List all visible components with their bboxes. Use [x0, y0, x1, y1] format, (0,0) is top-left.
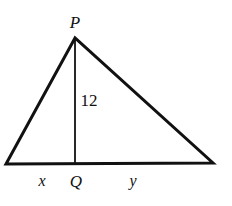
vertex-label-p: P — [70, 14, 80, 31]
vertex-label-q: Q — [70, 173, 82, 190]
geometry-figure: P 12 x Q y — [0, 0, 232, 206]
base-segment-label-x: x — [38, 173, 45, 189]
altitude-length-label: 12 — [81, 92, 98, 109]
triangle-outline — [6, 38, 213, 164]
base-segment-label-y: y — [129, 173, 136, 189]
triangle-diagram-canvas — [0, 0, 232, 206]
